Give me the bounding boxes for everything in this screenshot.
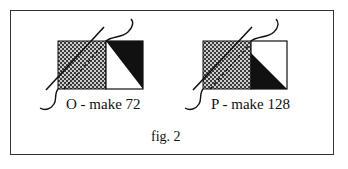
checkered-square-p (203, 41, 251, 89)
figure-label: fig. 2 (151, 129, 181, 145)
thread-icon-p-bottom (185, 89, 203, 109)
thread-icon-p-top (251, 19, 278, 41)
thread-icon-o-top (106, 19, 133, 41)
caption-panel-o: O - make 72 (66, 96, 141, 113)
caption-panel-p: P - make 128 (211, 96, 290, 113)
thread-icon-o-bottom (40, 89, 58, 109)
checkered-square-o (58, 41, 106, 89)
